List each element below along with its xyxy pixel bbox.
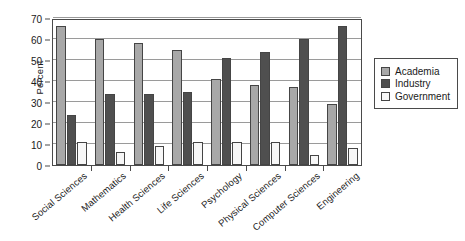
bar-government <box>155 146 165 165</box>
bar-group <box>211 20 242 165</box>
bar-industry <box>183 92 193 166</box>
legend-swatch-icon <box>381 79 390 88</box>
bar-government <box>348 148 358 165</box>
legend-item: Government <box>381 91 450 102</box>
bars-layer <box>53 20 361 165</box>
y-tick-label: 40 <box>31 77 42 88</box>
x-axis-label: Computer Sciences <box>250 170 322 233</box>
legend-swatch-icon <box>381 67 390 76</box>
legend-item-label: Academia <box>395 66 439 77</box>
bar-industry <box>67 115 77 165</box>
bar-government <box>77 142 87 165</box>
bar-academia <box>56 26 66 165</box>
bar-industry <box>222 58 232 165</box>
x-axis-labels: Social SciencesMathematicsHealth Science… <box>0 166 465 241</box>
bar-group <box>250 20 281 165</box>
y-tick-label: 70 <box>31 14 42 25</box>
bar-academia <box>134 43 144 165</box>
y-tick-label: 10 <box>31 140 42 151</box>
y-tick-mark <box>45 82 50 83</box>
y-tick-label: 20 <box>31 119 42 130</box>
bar-government <box>116 152 126 165</box>
y-tick-mark <box>45 103 50 104</box>
legend-swatch-icon <box>381 92 390 101</box>
bar-academia <box>172 50 182 166</box>
bar-government <box>193 142 203 165</box>
chart-legend: AcademiaIndustryGovernment <box>374 58 458 109</box>
bar-government <box>310 155 320 166</box>
bar-academia <box>250 85 260 165</box>
bar-group <box>289 20 320 165</box>
gridline <box>53 17 361 18</box>
legend-item: Academia <box>381 66 450 77</box>
bar-group <box>327 20 358 165</box>
y-tick-mark <box>45 145 50 146</box>
bar-industry <box>105 94 115 165</box>
x-axis-label: Social Sciences <box>30 170 90 222</box>
y-tick-label: 60 <box>31 35 42 46</box>
y-tick-label: 30 <box>31 98 42 109</box>
plot-area <box>52 19 362 166</box>
bar-government <box>232 142 242 165</box>
bar-chart: Percent 010203040506070 Social SciencesM… <box>0 0 465 241</box>
bar-academia <box>289 87 299 165</box>
y-tick-mark <box>45 124 50 125</box>
legend-item-label: Government <box>395 91 450 102</box>
bar-group <box>134 20 165 165</box>
bar-industry <box>144 94 154 165</box>
bar-group <box>172 20 203 165</box>
bar-industry <box>260 52 270 165</box>
bar-group <box>56 20 87 165</box>
bar-academia <box>211 79 221 165</box>
bar-academia <box>95 39 105 165</box>
y-tick-label: 50 <box>31 56 42 67</box>
legend-item-label: Industry <box>395 78 431 89</box>
legend-item: Industry <box>381 78 450 89</box>
y-tick-mark <box>45 19 50 20</box>
bar-academia <box>327 104 337 165</box>
y-tick-mark <box>45 61 50 62</box>
y-axis-ticks: 010203040506070 <box>0 19 50 166</box>
y-tick-mark <box>45 40 50 41</box>
bar-group <box>95 20 126 165</box>
bar-industry <box>338 26 348 165</box>
bar-government <box>271 142 281 165</box>
bar-industry <box>299 39 309 165</box>
